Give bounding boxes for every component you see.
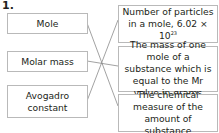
exponent: 23 [171, 30, 177, 36]
line-mole-to-chemical-measure [87, 23, 118, 106]
definition-label: Number of particles in a mole, 6.02 × 10… [122, 6, 214, 42]
term-mole[interactable]: Mole [7, 13, 88, 34]
term-molar-mass[interactable]: Molar mass [7, 51, 88, 72]
term-label: Mole [37, 18, 59, 30]
definition-label: The chemical measure of the amount of su… [123, 89, 213, 133]
term-label: Avogadro constant [22, 90, 73, 114]
term-avogadro-constant[interactable]: Avogadro constant [7, 85, 88, 118]
line-avogadro-to-number-of-particles [87, 20, 118, 101]
definition-number-of-particles[interactable]: Number of particles in a mole, 6.02 × 10… [118, 5, 218, 43]
term-label: Molar mass [21, 56, 74, 68]
definition-mass-of-one-mole[interactable]: The mass of one mole of a substance whic… [118, 46, 218, 92]
definition-chemical-measure[interactable]: The chemical measure of the amount of su… [118, 94, 218, 132]
